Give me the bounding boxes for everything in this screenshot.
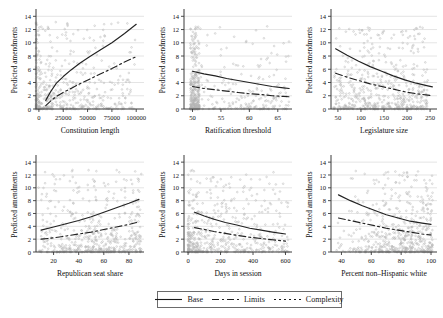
svg-text:100: 100 (426, 257, 437, 264)
svg-text:6: 6 (176, 210, 180, 217)
svg-text:14: 14 (24, 13, 31, 20)
svg-text:0: 0 (323, 249, 327, 256)
svg-text:0: 0 (37, 114, 41, 121)
legend-item-limits: Limits (212, 296, 265, 304)
svg-text:12: 12 (172, 172, 179, 179)
panel-legislature-size: 0246810121450100150200250Legislature siz… (295, 0, 443, 145)
svg-text:100: 100 (356, 114, 367, 121)
svg-text:65: 65 (274, 114, 281, 121)
svg-text:12: 12 (24, 172, 31, 179)
svg-text:Days in session: Days in session (214, 269, 261, 278)
svg-text:55: 55 (218, 114, 225, 121)
multi-panel-scatter-figure: 024681012140250005000075000100000Constit… (0, 0, 443, 318)
panel-constitution-length: 024681012140250005000075000100000Constit… (0, 0, 150, 145)
svg-text:2: 2 (28, 236, 31, 243)
svg-text:8: 8 (28, 197, 32, 204)
svg-text:10: 10 (172, 184, 179, 191)
svg-text:6: 6 (28, 210, 32, 217)
svg-text:4: 4 (323, 79, 327, 86)
svg-text:Predicted amendments: Predicted amendments (305, 27, 314, 93)
plot-area-republican-seat-share: 0246810121420406080Republican seat share… (0, 146, 150, 288)
svg-text:12: 12 (319, 26, 326, 33)
panel-republican-seat-share: 0246810121420406080Republican seat share… (0, 146, 150, 288)
svg-text:80: 80 (126, 257, 133, 264)
plot-area-constitution-length: 024681012140250005000075000100000Constit… (0, 0, 150, 145)
svg-text:8: 8 (28, 53, 32, 60)
svg-text:10: 10 (24, 184, 31, 191)
svg-text:0: 0 (176, 249, 180, 256)
svg-text:12: 12 (172, 26, 179, 33)
svg-text:4: 4 (28, 79, 32, 86)
legend-label-complexity: Complexity (306, 296, 344, 304)
svg-text:10: 10 (172, 39, 179, 46)
legend-label-limits: Limits (244, 296, 265, 304)
plot-area-percent-non-hispanic-white: 02468101214406080100Percent non–Hispanic… (295, 146, 443, 288)
svg-text:20: 20 (50, 257, 57, 264)
svg-text:Predicted amendments: Predicted amendments (158, 171, 167, 237)
svg-text:50: 50 (189, 114, 196, 121)
svg-text:14: 14 (319, 159, 326, 166)
legend-swatch-complexity (274, 296, 301, 303)
svg-text:8: 8 (323, 197, 327, 204)
svg-text:12: 12 (24, 26, 31, 33)
svg-text:Constitution length: Constitution length (61, 126, 120, 135)
svg-text:6: 6 (323, 66, 327, 73)
svg-text:0: 0 (28, 249, 32, 256)
legend-swatch-limits (212, 296, 239, 303)
svg-text:6: 6 (176, 66, 180, 73)
svg-text:0: 0 (186, 257, 190, 264)
svg-text:10: 10 (319, 39, 326, 46)
svg-text:10: 10 (24, 39, 31, 46)
svg-text:8: 8 (176, 197, 180, 204)
svg-text:12: 12 (319, 172, 326, 179)
svg-text:200: 200 (402, 114, 413, 121)
svg-text:60: 60 (101, 257, 108, 264)
svg-text:Predicted amendments: Predicted amendments (10, 171, 19, 237)
svg-text:4: 4 (176, 223, 180, 230)
svg-text:14: 14 (172, 159, 179, 166)
svg-text:40: 40 (338, 257, 345, 264)
svg-text:Predicted amendments: Predicted amendments (158, 27, 167, 93)
svg-text:400: 400 (248, 257, 259, 264)
svg-text:2: 2 (323, 92, 326, 99)
panel-days-in-session: 024681012140200400600Days in sessionPred… (148, 146, 298, 288)
svg-text:75000: 75000 (104, 114, 121, 121)
svg-text:150: 150 (379, 114, 390, 121)
panel-ratification-threshold: 0246810121450556065Ratification threshol… (148, 0, 298, 145)
svg-text:60: 60 (368, 257, 375, 264)
svg-text:250: 250 (425, 114, 436, 121)
svg-text:4: 4 (323, 223, 327, 230)
svg-text:14: 14 (24, 159, 31, 166)
legend-item-base: Base (155, 296, 203, 304)
svg-text:Legislature size: Legislature size (360, 126, 408, 135)
svg-text:Predicted amendments: Predicted amendments (305, 171, 314, 237)
svg-text:2: 2 (176, 236, 179, 243)
panel-percent-non-hispanic-white: 02468101214406080100Percent non–Hispanic… (295, 146, 443, 288)
svg-text:Republican seat share: Republican seat share (57, 269, 124, 278)
svg-text:0: 0 (323, 106, 327, 113)
svg-text:100000: 100000 (126, 114, 146, 121)
svg-text:2: 2 (28, 92, 31, 99)
svg-text:80: 80 (398, 257, 405, 264)
svg-text:8: 8 (323, 53, 327, 60)
plot-area-ratification-threshold: 0246810121450556065Ratification threshol… (148, 0, 298, 145)
legend-label-base: Base (187, 296, 203, 304)
legend: Base Limits Complexity (157, 291, 342, 308)
svg-text:50: 50 (335, 114, 342, 121)
svg-text:600: 600 (281, 257, 292, 264)
svg-text:2: 2 (323, 236, 326, 243)
svg-text:Percent non–Hispanic white: Percent non–Hispanic white (341, 269, 427, 278)
svg-text:4: 4 (176, 79, 180, 86)
svg-text:50000: 50000 (79, 114, 96, 121)
svg-text:14: 14 (172, 13, 179, 20)
svg-text:6: 6 (323, 210, 327, 217)
svg-text:200: 200 (216, 257, 227, 264)
plot-area-legislature-size: 0246810121450100150200250Legislature siz… (295, 0, 443, 145)
plot-area-days-in-session: 024681012140200400600Days in sessionPred… (148, 146, 298, 288)
svg-text:10: 10 (319, 184, 326, 191)
svg-text:14: 14 (319, 13, 326, 20)
svg-text:8: 8 (176, 53, 180, 60)
svg-text:60: 60 (246, 114, 253, 121)
svg-text:2: 2 (176, 92, 179, 99)
svg-text:25000: 25000 (55, 114, 72, 121)
